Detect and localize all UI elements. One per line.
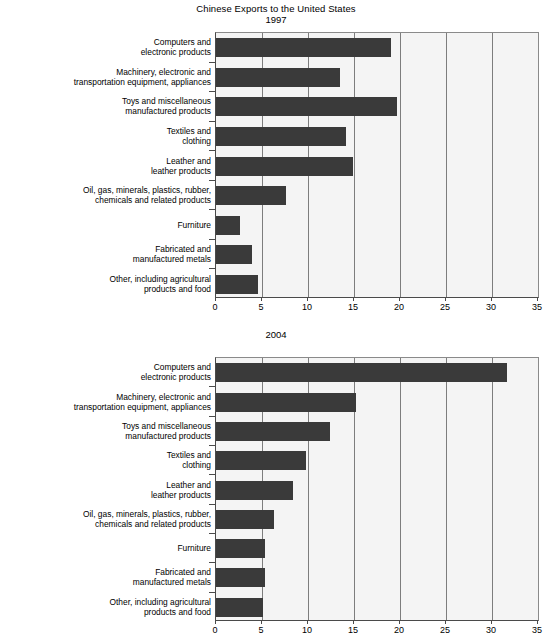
bar-1997-6 [216,216,240,235]
x-tick-35 [537,620,538,624]
x-tick-10 [307,297,308,301]
x-tick-30 [491,297,492,301]
bar-fill [216,422,330,441]
gridline-25 [446,33,447,297]
x-tick-label-15: 15 [338,625,368,635]
gridline-30 [492,33,493,297]
x-tick-label-5: 5 [246,625,276,635]
x-tick-label-25: 25 [430,625,460,635]
category-label-0: Computers and electronic products [0,37,211,57]
bar-2004-1 [216,393,356,412]
category-label-8: Other, including agricultural products a… [0,274,211,294]
y-tick-4 [209,150,216,151]
bar-2004-4 [216,481,293,500]
bar-1997-0 [216,38,391,57]
y-tick-1 [209,386,216,387]
bar-1997-5 [216,186,286,205]
x-tick-label-0: 0 [200,625,230,635]
bar-fill [216,245,252,264]
bar-fill [216,157,353,176]
y-tick-2 [209,91,216,92]
figure-title: Chinese Exports to the United States [0,3,552,14]
bar-2004-3 [216,451,306,470]
bar-fill [216,186,286,205]
y-tick-7 [209,239,216,240]
category-label-5: Oil, gas, minerals, plastics, rubber, ch… [0,185,211,205]
x-tick-30 [491,620,492,624]
gridline-20 [400,358,401,620]
x-tick-label-10: 10 [292,302,322,312]
bar-1997-7 [216,245,252,264]
y-tick-4 [209,474,216,475]
bar-fill [216,97,397,116]
category-label-6: Furniture [0,220,211,230]
category-label-0: Computers and electronic products [0,362,211,382]
chart-2004-title: 2004 [0,329,552,340]
bar-1997-8 [216,275,258,294]
bar-fill [216,598,263,617]
chart-1997-title: 1997 [0,14,552,25]
bar-fill [216,127,346,146]
x-tick-0 [215,297,216,301]
y-tick-7 [209,562,216,563]
category-label-1: Machinery, electronic and transportation… [0,392,211,412]
bar-2004-5 [216,510,274,529]
category-label-8: Other, including agricultural products a… [0,597,211,617]
bar-1997-2 [216,97,397,116]
x-tick-label-5: 5 [246,302,276,312]
chart-1997-category-labels: Computers and electronic productsMachine… [0,32,211,296]
x-tick-15 [353,297,354,301]
x-tick-0 [215,620,216,624]
y-tick-6 [209,209,216,210]
bar-fill [216,393,356,412]
bar-fill [216,363,507,382]
x-tick-label-20: 20 [384,625,414,635]
y-tick-8 [209,268,216,269]
bar-fill [216,539,265,558]
bar-2004-6 [216,539,265,558]
x-tick-label-0: 0 [200,302,230,312]
category-label-4: Leather and leather products [0,480,211,500]
gridline-15 [354,33,355,297]
bar-1997-4 [216,157,353,176]
x-tick-20 [399,620,400,624]
x-tick-15 [353,620,354,624]
chart-2004-plot-area [215,357,539,621]
x-tick-label-35: 35 [522,625,552,635]
x-tick-label-30: 30 [476,625,506,635]
x-tick-label-35: 35 [522,302,552,312]
x-tick-35 [537,297,538,301]
category-label-5: Oil, gas, minerals, plastics, rubber, ch… [0,509,211,529]
bar-fill [216,216,240,235]
x-tick-label-25: 25 [430,302,460,312]
bar-fill [216,568,265,587]
x-tick-20 [399,297,400,301]
bar-2004-7 [216,568,265,587]
category-label-7: Fabricated and manufactured metals [0,244,211,264]
bar-fill [216,451,306,470]
y-tick-1 [209,62,216,63]
bar-1997-1 [216,68,340,87]
bar-2004-2 [216,422,330,441]
category-label-6: Furniture [0,543,211,553]
y-tick-5 [209,504,216,505]
x-tick-label-30: 30 [476,302,506,312]
category-label-1: Machinery, electronic and transportation… [0,67,211,87]
x-tick-10 [307,620,308,624]
chart-2004-category-labels: Computers and electronic productsMachine… [0,357,211,619]
category-label-7: Fabricated and manufactured metals [0,567,211,587]
bar-2004-8 [216,598,263,617]
chart-1997-plot-area [215,32,539,298]
bar-1997-3 [216,127,346,146]
bar-fill [216,275,258,294]
y-tick-5 [209,180,216,181]
category-label-4: Leather and leather products [0,156,211,176]
x-tick-25 [445,297,446,301]
category-label-2: Toys and miscellaneous manufactured prod… [0,96,211,116]
bar-fill [216,510,274,529]
bar-fill [216,68,340,87]
x-tick-25 [445,620,446,624]
x-tick-label-20: 20 [384,302,414,312]
x-tick-label-10: 10 [292,625,322,635]
y-tick-8 [209,592,216,593]
